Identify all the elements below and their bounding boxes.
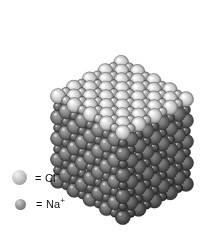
legend-symbol-sodium: Na: [46, 198, 60, 210]
nacl-crystal-figure: = Cl− = Na+: [0, 0, 210, 237]
legend-label-chloride: = Cl−: [35, 172, 61, 184]
legend-equals-sodium: =: [36, 198, 43, 210]
legend-label-sodium: = Na+: [36, 198, 65, 210]
legend-symbol-chloride: Cl: [45, 172, 56, 184]
sodium-sphere-icon: [15, 199, 26, 210]
legend-equals-chloride: =: [35, 172, 42, 184]
legend-item-chloride[interactable]: = Cl−: [12, 170, 61, 185]
chloride-sphere-icon: [12, 170, 27, 185]
legend-item-sodium[interactable]: = Na+: [15, 198, 65, 210]
legend-charge-chloride: −: [56, 170, 61, 179]
legend-charge-sodium: +: [60, 196, 65, 205]
